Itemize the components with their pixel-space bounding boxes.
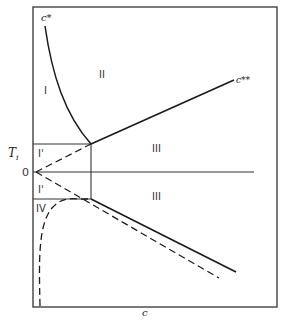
- diagram-frame: [33, 7, 277, 307]
- c-double-star-line: [91, 80, 234, 144]
- region-IV-label: IV: [36, 203, 46, 214]
- lower-solid-line: [91, 199, 236, 272]
- region-I-label: I: [44, 85, 47, 96]
- x-axis-label: c: [142, 307, 148, 318]
- region-iv-dashed-curve: [39, 199, 91, 306]
- origin-label: 0: [22, 166, 29, 179]
- c-star-curve: [45, 26, 91, 144]
- lower-dashed-line: [36, 172, 219, 278]
- region-I-prime-lower-label: I': [38, 184, 44, 195]
- phase-diagram: c* c** I II III III I' I' IV 0 Ti c: [0, 0, 287, 320]
- c-star-label: c*: [41, 12, 52, 23]
- region-III-upper-label: III: [152, 143, 161, 154]
- region-I-prime-upper-label: I': [38, 148, 44, 159]
- region-III-lower-label: III: [152, 191, 161, 202]
- c-double-star-label: c**: [236, 75, 251, 85]
- region-II-label: II: [99, 69, 105, 80]
- upper-dashed-line: [36, 144, 91, 172]
- y-axis-label: Ti: [8, 146, 19, 162]
